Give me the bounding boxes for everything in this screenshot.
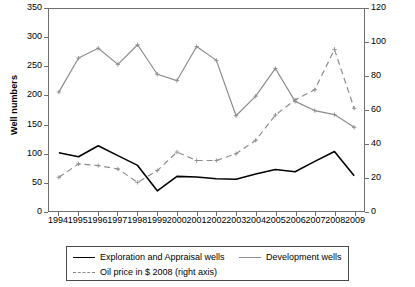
y-tickmark-left: [44, 212, 48, 213]
y-tick-right-120: 120: [371, 3, 405, 12]
series-marker: [194, 158, 198, 162]
series-canvas: [49, 9, 364, 211]
y-tick-right-60: 60: [371, 105, 405, 114]
y-tick-left-100: 100: [8, 149, 42, 158]
y-tickmark-right: [365, 144, 369, 145]
y-tick-left-350: 350: [8, 3, 42, 12]
legend-item-development: Development wells: [239, 252, 342, 262]
solid-grey-line-icon: [239, 253, 261, 262]
y-tickmark-right: [365, 42, 369, 43]
y-tickmark-right: [365, 212, 369, 213]
series-line-0: [59, 146, 354, 191]
x-tickmark: [276, 212, 277, 216]
series-line-2: [59, 49, 354, 182]
y-tick-left-150: 150: [8, 120, 42, 129]
series-line-1: [59, 45, 354, 128]
x-tickmark: [177, 212, 178, 216]
y-tickmark-right: [365, 110, 369, 111]
y-tick-left-200: 200: [8, 90, 42, 99]
legend-item-exploration: Exploration and Appraisal wells: [73, 252, 225, 262]
x-tickmark: [78, 212, 79, 216]
x-tickmark: [236, 212, 237, 216]
series-marker: [332, 47, 336, 51]
y-tick-left-250: 250: [8, 61, 42, 70]
x-tickmark: [315, 212, 316, 216]
x-tickmark: [98, 212, 99, 216]
series-marker: [214, 158, 218, 162]
y-tick-right-80: 80: [371, 71, 405, 80]
legend-label-development: Development wells: [266, 252, 342, 262]
x-tickmark: [335, 212, 336, 216]
series-marker: [96, 163, 100, 167]
y-axis-title-left: Well numbers: [9, 65, 19, 145]
y-tick-right-0: 0: [371, 207, 405, 216]
y-tickmark-right: [365, 76, 369, 77]
y-tickmark-right: [365, 8, 369, 9]
dashed-grey-line-icon: [73, 268, 95, 277]
y-tick-right-100: 100: [371, 37, 405, 46]
x-tickmark: [296, 212, 297, 216]
x-tickmark: [117, 212, 118, 216]
series-marker: [175, 150, 179, 154]
solid-black-line-icon: [73, 253, 95, 262]
legend-label-oil-price: Oil price in $ 2008 (right axis): [100, 267, 217, 277]
x-tick-2009: 2009: [338, 215, 372, 225]
legend-item-oil-price: Oil price in $ 2008 (right axis): [73, 267, 217, 277]
x-tickmark: [197, 212, 198, 216]
y-tick-left-0: 0: [8, 207, 42, 216]
chart-legend: Exploration and Appraisal wells Developm…: [66, 246, 349, 281]
series-marker: [116, 167, 120, 171]
y-tick-right-40: 40: [371, 139, 405, 148]
x-tickmark: [355, 212, 356, 216]
x-tickmark: [137, 212, 138, 216]
series-marker: [352, 106, 356, 110]
x-tickmark: [58, 212, 59, 216]
plot-area: [48, 8, 365, 212]
series-marker: [313, 108, 317, 112]
y-tick-left-300: 300: [8, 32, 42, 41]
y-tick-left-50: 50: [8, 178, 42, 187]
x-tickmark: [256, 212, 257, 216]
x-tickmark: [216, 212, 217, 216]
series-marker: [313, 88, 317, 92]
chart-figure: Well numbers 050100150200250300350 02040…: [0, 0, 415, 287]
y-tickmark-right: [365, 178, 369, 179]
x-tickmark: [157, 212, 158, 216]
legend-label-exploration: Exploration and Appraisal wells: [100, 252, 225, 262]
y-tick-right-20: 20: [371, 173, 405, 182]
